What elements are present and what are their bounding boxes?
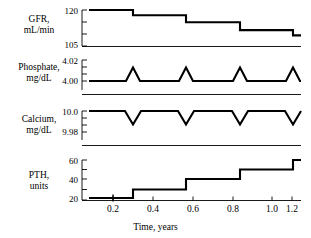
panel-gfr: GFR, mL/min 120 105 — [0, 0, 311, 50]
panel-calcium: Calcium, mg/dL 10.0 9.98 — [0, 100, 311, 152]
panel-phosphate: Phosphate, mg/dL 4.02 4.00 — [0, 50, 311, 100]
multi-panel-physiology-chart: GFR, mL/min 120 105 Phosphate, mg/dL 4.0… — [0, 0, 311, 238]
xtick-label-3: 0.8 — [218, 205, 248, 215]
xtick-label-1: 0.4 — [138, 205, 168, 215]
panel-gfr-trace — [89, 10, 301, 35]
panel-calcium-yaxis — [82, 111, 87, 140]
panel-pth-yaxis — [82, 160, 87, 200]
panel-pth: PTH, units 60 40 20 0.2 0.4 0.6 0.8 1.0 … — [0, 152, 311, 238]
panel-calcium-trace — [89, 111, 301, 125]
panel-gfr-yaxis — [82, 10, 87, 46]
xtick-label-0: 0.2 — [98, 205, 128, 215]
panel-calcium-plot — [0, 100, 311, 152]
xtick-label-2: 0.6 — [178, 205, 208, 215]
xtick-label-5: 1.2 — [277, 205, 307, 215]
panel-phosphate-trace — [89, 68, 301, 82]
panel-phosphate-yaxis — [82, 60, 87, 90]
x-axis-title: Time, years — [0, 222, 311, 232]
panel-phosphate-plot — [0, 50, 311, 100]
panel-pth-trace — [89, 160, 301, 198]
panel-gfr-plot — [0, 0, 311, 50]
